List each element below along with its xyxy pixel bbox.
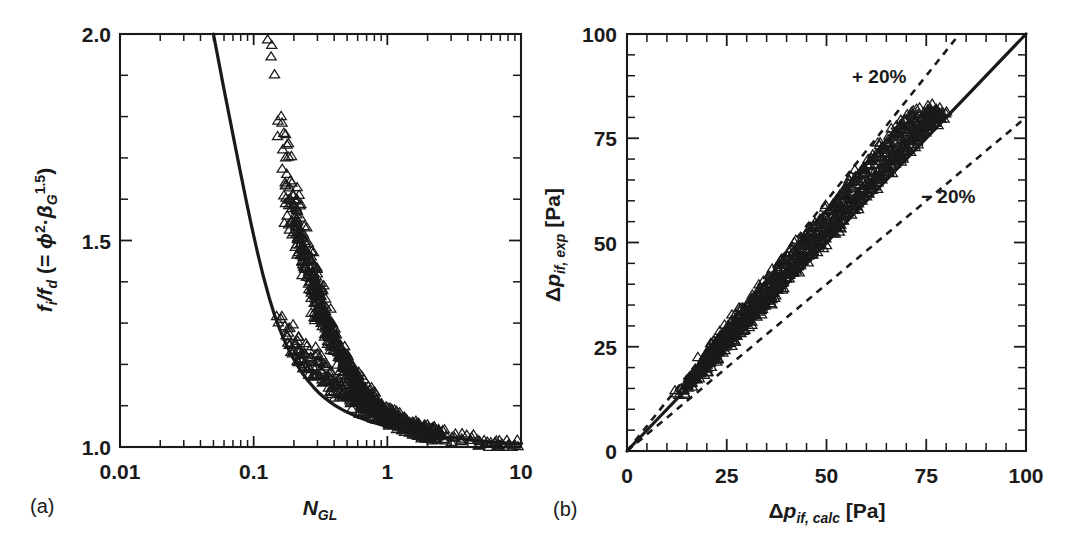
y-ticklabel: 2.0 xyxy=(82,23,111,46)
panel-a-y-ticklabels: 1.01.52.0 xyxy=(82,23,112,459)
x-ticklabel: 25 xyxy=(715,464,739,487)
panel-a-y-axis-label: fi/fd (= ϕ2·βG1.5) xyxy=(32,168,60,312)
x-ticklabel: 75 xyxy=(915,464,939,487)
b-ylabel-sub: if, exp xyxy=(552,233,568,274)
ylabel-beta-sub: G xyxy=(44,194,60,205)
panel-b-x-ticklabels: 0255075100 xyxy=(621,464,1043,487)
panel-a-y-axis-label-group: fi/fd (= ϕ2·βG1.5) xyxy=(32,168,60,312)
x-ticklabel: 0.1 xyxy=(239,460,269,483)
y-ticklabel: 100 xyxy=(582,23,617,46)
panel-a-svg: 0.010.1110 1.01.52.0 NGL fi/fd (= ϕ2·βG1… xyxy=(0,0,540,541)
figure-container: 0.010.1110 1.01.52.0 NGL fi/fd (= ϕ2·βG1… xyxy=(0,0,1075,541)
panel-b-y-axis-label: Δpif, exp [Pa] xyxy=(541,188,568,302)
b-ylabel-delta: Δ xyxy=(541,287,564,302)
ylabel-close: ) xyxy=(33,168,56,175)
ylabel-dot: · xyxy=(33,218,56,225)
data-point-triangle xyxy=(266,52,276,60)
x-ticklabel: 10 xyxy=(509,460,532,483)
y-ticklabel: 0 xyxy=(605,440,617,463)
b-xlabel-p: p xyxy=(783,499,797,522)
ylabel-open: (= xyxy=(33,249,56,280)
y-ticklabel: 50 xyxy=(594,232,617,255)
panel-b-label: (b) xyxy=(553,498,577,520)
x-ticklabel: 0 xyxy=(621,464,633,487)
b-xlabel-delta: Δ xyxy=(768,499,783,522)
y-ticklabel: 1.0 xyxy=(82,436,111,459)
panel-b-scatter-points xyxy=(670,99,952,398)
x-ticklabel: 0.01 xyxy=(100,460,141,483)
x-ticklabel: 50 xyxy=(815,464,838,487)
panel-a-label: (a) xyxy=(30,495,54,517)
b-ylabel-p: p xyxy=(541,274,564,288)
y-ticklabel: 75 xyxy=(594,127,618,150)
b-xlabel-sub: if, calc xyxy=(796,510,840,526)
ylabel-beta: β xyxy=(33,205,56,219)
panel-b-y-ticklabels: 0255075100 xyxy=(582,23,617,463)
panel-a-x-axis-label-sub: GL xyxy=(318,507,337,523)
reference-line--20- xyxy=(627,117,1026,451)
b-xlabel-unit: [Pa] xyxy=(840,499,886,522)
ylabel-phi-sup: 2 xyxy=(32,225,48,233)
panel-a-x-ticklabels: 0.010.1110 xyxy=(100,460,533,483)
panel-a-x-axis-label: NGL xyxy=(303,496,338,523)
annotation-minus-20-percent: − 20% xyxy=(921,186,976,207)
panel-a: 0.010.1110 1.01.52.0 NGL fi/fd (= ϕ2·βG1… xyxy=(0,0,540,541)
ylabel-beta-sup: 1.5 xyxy=(32,175,48,195)
panel-a-x-axis-label-main: N xyxy=(303,496,319,519)
annotation-plus-20-percent: + 20% xyxy=(852,66,907,87)
ylabel-phi: ϕ xyxy=(33,233,56,249)
panel-b-x-axis-label: Δpif, calc [Pa] xyxy=(768,499,885,526)
panel-b: 0255075100 0255075100 + 20% − 20% Δpif, … xyxy=(535,0,1075,541)
x-ticklabel: 100 xyxy=(1008,464,1043,487)
data-point-triangle xyxy=(269,70,279,78)
panel-a-scatter-points xyxy=(263,35,524,450)
x-ticklabel: 1 xyxy=(381,460,393,483)
b-ylabel-unit: [Pa] xyxy=(541,188,564,234)
y-ticklabel: 25 xyxy=(594,336,618,359)
panel-b-svg: 0255075100 0255075100 + 20% − 20% Δpif, … xyxy=(535,0,1075,541)
y-ticklabel: 1.5 xyxy=(82,230,112,253)
panel-b-y-axis-label-group: Δpif, exp [Pa] xyxy=(541,188,568,302)
